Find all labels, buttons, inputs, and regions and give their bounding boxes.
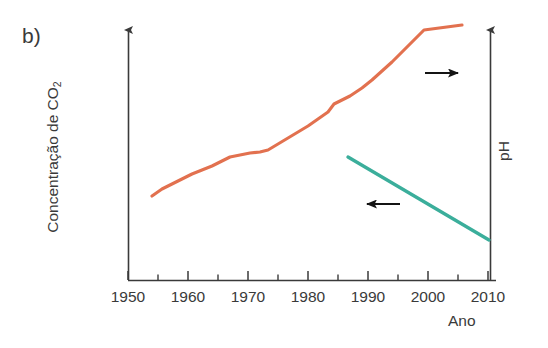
chart-canvas — [0, 0, 548, 348]
x-axis-major-ticks — [128, 271, 488, 280]
series-line-co2 — [152, 25, 462, 196]
figure-panel: b) Concentração de CO2 pH Ano 1950 1960 … — [0, 0, 548, 348]
series-line-ph — [348, 157, 489, 240]
